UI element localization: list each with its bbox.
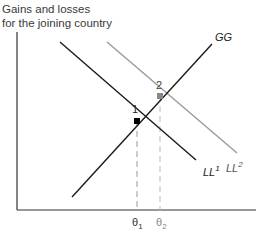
gg-label: GG — [215, 31, 233, 43]
theta2-label: θ2 — [156, 216, 167, 231]
point-1-marker — [134, 118, 140, 124]
point-2-marker — [157, 93, 163, 99]
theta1-label: θ1 — [132, 216, 143, 231]
point-2-label: 2 — [156, 79, 162, 91]
gg-curve — [72, 44, 212, 197]
ll1-label: LL1 — [203, 164, 220, 178]
point-1-label: 1 — [132, 103, 138, 115]
ll2-label: LL2 — [226, 160, 243, 174]
diagram-canvas: 1 2 GG LL1 LL2 θ1 θ2 — [0, 0, 263, 234]
ll2-curve — [107, 42, 237, 153]
